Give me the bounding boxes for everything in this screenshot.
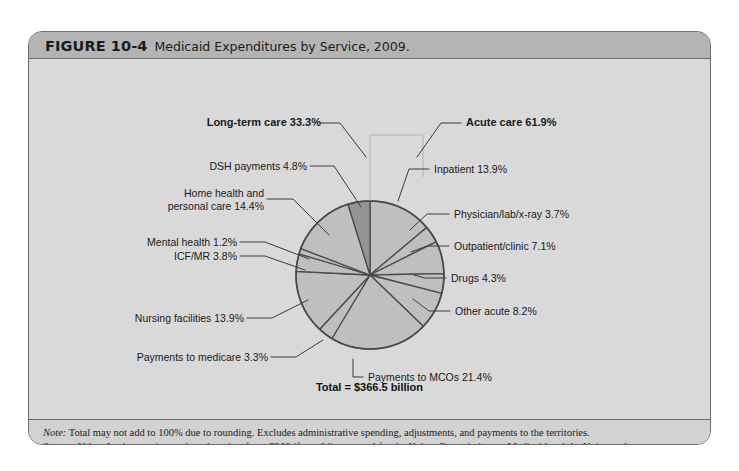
label-nursing-facilities: Nursing facilities 13.9% bbox=[115, 312, 244, 325]
label-home-health-line1: Home health and bbox=[184, 187, 264, 199]
leader-acute-care bbox=[417, 123, 461, 157]
footnote-note-prefix: Note: bbox=[43, 427, 66, 438]
leader-inpatient bbox=[398, 169, 429, 201]
figure-panel: FIGURE 10-4Medicaid Expenditures by Serv… bbox=[28, 31, 711, 445]
leader-long-term-care bbox=[320, 123, 366, 157]
label-long-term-care: Long-term care 33.3% bbox=[195, 116, 321, 129]
label-home-health: Home health and personal care 14.4% bbox=[145, 187, 264, 212]
figure-footnote: Note: Total may not add to 100% due to r… bbox=[29, 419, 710, 444]
footnote-source-prefix: Source: bbox=[43, 441, 75, 445]
label-outpatient: Outpatient/clinic 7.1% bbox=[454, 240, 556, 253]
chart-plot-area: Long-term care 33.3% Acute care 61.9% DS… bbox=[29, 59, 710, 419]
pie-slices bbox=[296, 201, 444, 349]
total-label: Total = $366.5 billion bbox=[29, 381, 710, 393]
footnote-note-text: Total may not add to 100% due to roundin… bbox=[66, 427, 589, 438]
footnote-source-text: Urban Institute estimates based on data … bbox=[75, 441, 629, 445]
figure-header-band: FIGURE 10-4Medicaid Expenditures by Serv… bbox=[29, 32, 710, 59]
figure-number: FIGURE 10-4 bbox=[45, 38, 147, 54]
leader-icf-mr bbox=[240, 256, 305, 270]
group-bracket bbox=[370, 135, 423, 201]
leader-mcos bbox=[353, 359, 363, 377]
label-dsh-payments: DSH payments 4.8% bbox=[185, 160, 307, 173]
label-icf-mr: ICF/MR 3.8% bbox=[147, 250, 237, 263]
label-payments-to-medicare: Payments to medicare 3.3% bbox=[113, 351, 268, 364]
leader-medicare bbox=[271, 340, 323, 357]
footnote-note: Note: Total may not add to 100% due to r… bbox=[43, 426, 696, 440]
label-physician: Physician/lab/x-ray 3.7% bbox=[454, 208, 569, 221]
label-mental-health: Mental health 1.2% bbox=[119, 236, 237, 249]
figure-header-text: FIGURE 10-4Medicaid Expenditures by Serv… bbox=[45, 37, 410, 55]
leader-dsh bbox=[310, 166, 361, 207]
figure-caption: Medicaid Expenditures by Service, 2009. bbox=[154, 39, 409, 54]
leader-nursing bbox=[247, 300, 308, 318]
label-home-health-line2: personal care 14.4% bbox=[168, 200, 264, 212]
label-other-acute: Other acute 8.2% bbox=[455, 305, 537, 318]
footnote-source: Source: Urban Institute estimates based … bbox=[43, 440, 696, 445]
label-acute-care: Acute care 61.9% bbox=[466, 116, 557, 129]
label-drugs: Drugs 4.3% bbox=[451, 272, 506, 285]
label-inpatient: Inpatient 13.9% bbox=[434, 163, 507, 176]
